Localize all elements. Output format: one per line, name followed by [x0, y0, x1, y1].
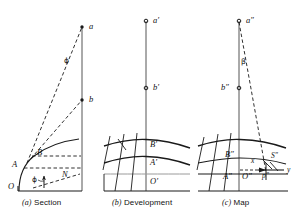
caption-map: (c) Map	[222, 198, 249, 207]
development-meridian-3	[131, 133, 137, 191]
caption-section: (a) Section	[22, 198, 61, 207]
caption-section-text: Section	[34, 198, 61, 207]
development-meridian-1	[103, 136, 110, 170]
label-section-point-B: B	[37, 148, 42, 157]
section-angle-arc-lower	[38, 180, 44, 181]
label-map-offset-y: y	[287, 166, 290, 174]
label-map-point-p: p″	[262, 172, 269, 180]
label-section-point-O: O	[8, 182, 14, 191]
label-development-point-O: O′	[150, 177, 158, 186]
section-earth-curve	[19, 139, 79, 191]
map-meridian-3	[224, 133, 231, 191]
label-section-angle-phi-upper: ϕ	[64, 57, 69, 65]
label-development-point-a: a′	[153, 16, 159, 25]
caption-map-text: Map	[234, 198, 250, 207]
panel-section-graphics	[18, 25, 84, 191]
map-parallel-upper	[198, 139, 286, 148]
label-map-point-a: a″	[246, 16, 254, 25]
label-section-point-b: b	[89, 95, 93, 104]
map-angle-arc-beta	[239, 70, 244, 74]
caption-development: (b) Development	[112, 198, 172, 207]
label-development-point-b: b′	[153, 83, 159, 92]
label-map-angle-beta: β	[241, 58, 246, 66]
label-map-point-O: O″	[242, 172, 252, 181]
map-meridian-1	[197, 137, 204, 170]
label-section-point-A: A	[12, 160, 17, 169]
map-dashed-ray-a-to-p	[239, 22, 266, 172]
label-map-point-A: A″	[223, 172, 232, 181]
caption-map-index: (c)	[222, 198, 231, 207]
panel-map-graphics	[197, 19, 288, 191]
panel-development-graphics	[103, 19, 190, 191]
label-section-point-N: N	[62, 170, 68, 179]
caption-development-index: (b)	[112, 198, 122, 207]
label-development-point-A: A′	[150, 158, 157, 167]
caption-development-text: Development	[124, 198, 172, 207]
development-parallel-upper	[104, 139, 190, 148]
label-section-point-a: a	[89, 22, 93, 31]
section-sightline-A-to-a	[27, 27, 82, 163]
label-development-point-B: B′	[150, 140, 157, 149]
section-sightline-A-to-b	[27, 100, 82, 163]
section-angle-arc-upper	[63, 78, 70, 84]
label-map-point-B: B″	[225, 150, 234, 159]
caption-section-index: (a)	[22, 198, 32, 207]
label-map-offset-x: x	[251, 157, 254, 165]
label-section-angle-phi-lower: ϕ	[32, 176, 37, 184]
label-map-point-S: S″	[271, 152, 278, 160]
development-parallel-middle	[104, 156, 190, 165]
label-map-point-b: b″	[221, 83, 229, 92]
figure-canvas: a b ϕ A B O N ϕ a′ b′ B′ A′ O′ a″ b″ β B…	[0, 0, 305, 212]
